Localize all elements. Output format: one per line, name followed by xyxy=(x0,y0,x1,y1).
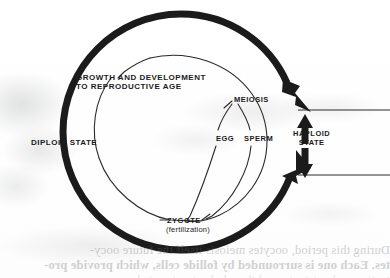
label-haploid-state: HAPLOIDSTATE xyxy=(293,130,330,148)
meiosis-leader-line xyxy=(224,101,232,108)
outer-cycle-ring xyxy=(63,14,290,250)
arrowhead-into-haploid-top xyxy=(282,79,311,112)
egg-branch-line xyxy=(218,104,232,130)
sperm-branch-line xyxy=(238,104,250,130)
label-sperm: SPERM xyxy=(244,135,273,144)
haploid-line-2: STATE xyxy=(299,138,325,147)
haploid-line-1: HAPLOID xyxy=(293,129,330,138)
outer-arc-left-bottom xyxy=(63,14,290,250)
egg-to-zygote-line xyxy=(187,146,216,220)
growth-line-2: TO REPRODUCTIVE AGE xyxy=(76,82,182,91)
label-meiosis: MEIOSIS xyxy=(234,96,269,105)
figure-page: GROWTH AND DEVELOPMENTTO REPRODUCTIVE AG… xyxy=(0,0,390,278)
label-egg: EGG xyxy=(216,135,234,144)
label-fertilization: (fertilization) xyxy=(155,226,221,235)
label-diploid-state: DIPLOID STATE xyxy=(31,138,97,147)
inner-circle-arc-left xyxy=(94,78,196,221)
growth-line-1: GROWTH AND DEVELOPMENT xyxy=(76,73,206,82)
label-growth-and-development: GROWTH AND DEVELOPMENTTO REPRODUCTIVE AG… xyxy=(76,73,206,92)
